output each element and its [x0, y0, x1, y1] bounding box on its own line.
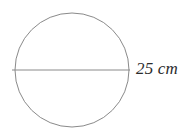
diameter-measurement-label: 25 cm [136, 58, 178, 80]
geometry-figure: 25 cm [0, 0, 191, 140]
